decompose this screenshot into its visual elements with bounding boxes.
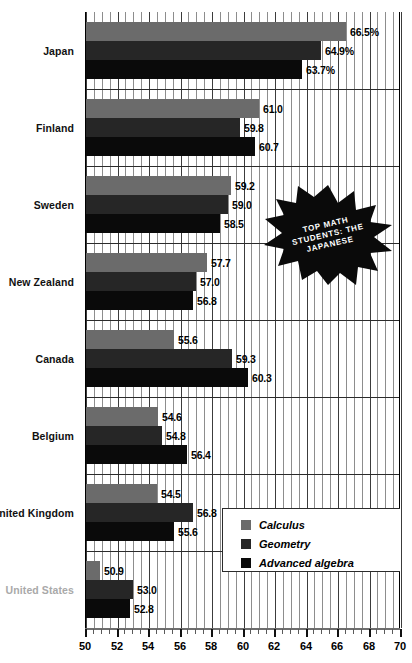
bar-value-label: 56.4	[191, 449, 211, 461]
axis-tick-minor	[124, 629, 125, 634]
bar-value-label: 56.8	[197, 295, 217, 307]
bar	[86, 368, 248, 387]
axis-tick-minor	[164, 629, 165, 634]
bar	[86, 195, 228, 214]
bar	[86, 60, 302, 79]
axis-tick-major	[306, 629, 308, 637]
axis-tick-minor	[156, 629, 157, 634]
bar	[86, 445, 187, 464]
axis-tick-minor	[361, 629, 362, 634]
bar-value-label: 50.9	[104, 565, 124, 577]
axis-tick-major	[148, 629, 150, 637]
bar-value-label: 59.8	[244, 122, 264, 134]
bar-value-label: 54.6	[162, 411, 182, 423]
bar-value-label: 56.8	[197, 507, 217, 519]
axis-tick-label: 50	[79, 640, 91, 652]
axis-tick-minor	[172, 629, 173, 634]
axis-tick-minor	[266, 629, 267, 634]
axis-tick-label: 60	[237, 640, 249, 652]
axis-tick-minor	[282, 629, 283, 634]
axis-tick-major	[117, 629, 119, 637]
bar-value-label: 57.7	[211, 257, 231, 269]
bar-value-label: 59.0	[232, 199, 252, 211]
bar	[86, 522, 174, 541]
horizontal-bar-chart: JapanFinlandSwedenNew ZealandCanadaBelgi…	[0, 0, 412, 663]
bar-value-label: 58.5	[224, 218, 244, 230]
legend-swatch-advanced-algebra-icon	[241, 558, 251, 568]
axis-tick-minor	[290, 629, 291, 634]
axis-tick-minor	[353, 629, 354, 634]
legend-item-calculus: Calculus	[241, 516, 400, 534]
axis-tick-major	[369, 629, 371, 637]
axis-tick-label: 52	[111, 640, 123, 652]
axis-tick-major	[211, 629, 213, 637]
axis-tick-major	[337, 629, 339, 637]
axis-tick-minor	[101, 629, 102, 634]
category-label-united-states: United States	[6, 584, 74, 596]
axis-tick-minor	[227, 629, 228, 634]
axis-tick-label: 70	[394, 640, 406, 652]
axis-tick-minor	[109, 629, 110, 634]
bar	[86, 561, 100, 580]
axis-tick-label: 66	[331, 640, 343, 652]
bar-value-label: 60.7	[259, 141, 279, 153]
legend-label-calculus: Calculus	[259, 519, 305, 531]
bar	[86, 484, 157, 503]
bar-value-label: 57.0	[200, 276, 220, 288]
bar	[86, 272, 196, 291]
category-label-sweden: Sweden	[34, 199, 74, 211]
axis-tick-minor	[187, 629, 188, 634]
category-label-belgium: Belgium	[32, 430, 74, 442]
axis-tick-minor	[392, 629, 393, 634]
category-label-finland: Finland	[36, 122, 74, 134]
axis-tick-minor	[329, 629, 330, 634]
axis-tick-minor	[235, 629, 236, 634]
bar	[86, 426, 162, 445]
bar	[86, 137, 255, 156]
value-axis: 5052545658606264666870	[85, 628, 400, 662]
bar-value-label: 54.8	[166, 430, 186, 442]
bar-value-label: 60.3	[252, 372, 272, 384]
axis-tick-major	[274, 629, 276, 637]
axis-tick-minor	[376, 629, 377, 634]
bar	[86, 580, 133, 599]
legend-swatch-geometry-icon	[241, 539, 251, 549]
axis-tick-minor	[298, 629, 299, 634]
legend-item-geometry: Geometry	[241, 535, 400, 553]
axis-tick-major	[400, 629, 402, 637]
bar-value-label: 59.3	[236, 353, 256, 365]
bar-value-label: 53.0	[137, 584, 157, 596]
bar-value-label: 61.0	[263, 103, 283, 115]
legend-swatch-calculus-icon	[241, 520, 251, 530]
axis-tick-major	[243, 629, 245, 637]
bar	[86, 407, 158, 426]
category-label-japan: Japan	[43, 45, 74, 57]
category-label-united-kingdom: United Kingdom	[0, 507, 74, 519]
bar	[86, 41, 321, 60]
axis-tick-minor	[321, 629, 322, 634]
bar-value-label: 59.2	[235, 180, 255, 192]
bar	[86, 349, 232, 368]
bar	[86, 330, 174, 349]
legend-label-advanced-algebra: Advanced algebra	[259, 557, 354, 569]
axis-tick-minor	[132, 629, 133, 634]
bar	[86, 99, 259, 118]
axis-tick-label: 58	[205, 640, 217, 652]
category-label-canada: Canada	[35, 353, 74, 365]
bar	[86, 253, 207, 272]
legend-label-geometry: Geometry	[259, 538, 310, 550]
category-label-new-zealand: New Zealand	[9, 276, 74, 288]
bar	[86, 214, 220, 233]
axis-tick-label: 62	[268, 640, 280, 652]
axis-tick-minor	[195, 629, 196, 634]
bar-value-label: 66.5%	[350, 26, 379, 38]
axis-tick-minor	[384, 629, 385, 634]
bar-value-label: 52.8	[134, 603, 154, 615]
axis-tick-label: 68	[363, 640, 375, 652]
axis-tick-label: 56	[174, 640, 186, 652]
category-axis-labels: JapanFinlandSwedenNew ZealandCanadaBelgi…	[0, 12, 80, 628]
axis-tick-major	[180, 629, 182, 637]
legend-item-advanced-algebra: Advanced algebra	[241, 554, 400, 572]
axis-tick-minor	[93, 629, 94, 634]
axis-tick-minor	[203, 629, 204, 634]
